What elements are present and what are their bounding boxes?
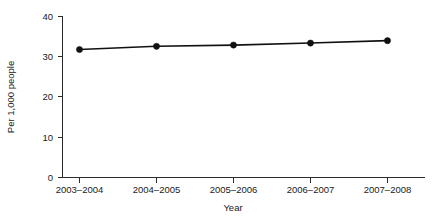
x-tick-label-0: 2003–2004: [56, 184, 104, 195]
x-axis-title: Year: [223, 202, 242, 213]
x-tick-label-3: 2006–2007: [287, 184, 335, 195]
y-tick-label-10: 10: [42, 132, 53, 143]
x-tick-label-4: 2007–2008: [364, 184, 412, 195]
data-point: [384, 38, 390, 44]
y-tick-label-30: 30: [42, 51, 53, 62]
x-tick-label-1: 2004–2005: [133, 184, 181, 195]
y-tick-label-20: 20: [42, 91, 53, 102]
y-axis-title: Per 1,000 people: [5, 61, 16, 133]
data-point: [76, 46, 82, 52]
x-tick-label-2: 2005–2006: [210, 184, 258, 195]
data-point: [153, 43, 159, 49]
y-tick-label-40: 40: [42, 11, 53, 22]
chart-canvas: 40 30 20 10 0 2003–2004 2004–2005 2005–2…: [0, 0, 432, 217]
y-tick-label-0: 0: [48, 172, 53, 183]
data-point: [307, 40, 313, 46]
line-chart: 40 30 20 10 0 2003–2004 2004–2005 2005–2…: [0, 0, 432, 217]
data-point: [230, 42, 236, 48]
